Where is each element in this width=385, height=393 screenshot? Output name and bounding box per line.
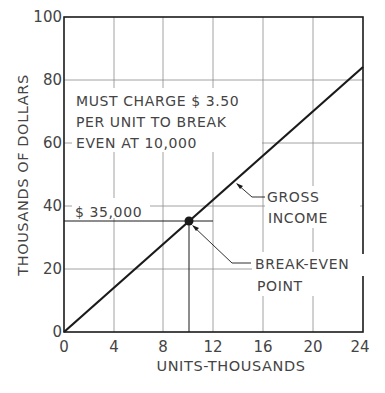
y-axis-label: THOUSANDS OF DOLLARS [15, 74, 31, 277]
svg-text:16: 16 [253, 338, 272, 356]
break-even-leader [193, 226, 251, 263]
y-tick-labels: 0 20 40 60 80 100 [33, 8, 62, 341]
break-even-guides [64, 221, 213, 332]
svg-text:POINT: POINT [257, 278, 303, 294]
svg-text:24: 24 [350, 338, 369, 356]
svg-text:EVEN AT 10,000: EVEN AT 10,000 [76, 135, 197, 151]
svg-text:0: 0 [59, 338, 69, 356]
x-tick-labels: 0 4 8 12 16 20 24 [59, 338, 369, 356]
x-axis-label: UNITS-THOUSANDS [156, 358, 305, 374]
break-even-point [185, 217, 194, 226]
break-even-value-label: $ 35,000 [75, 204, 142, 220]
svg-text:PER UNIT TO BREAK: PER UNIT TO BREAK [76, 114, 227, 130]
svg-text:INCOME: INCOME [268, 210, 328, 226]
svg-text:MUST CHARGE $ 3.50: MUST CHARGE $ 3.50 [76, 93, 239, 109]
svg-text:20: 20 [43, 260, 62, 278]
svg-text:20: 20 [303, 338, 322, 356]
svg-text:60: 60 [43, 134, 62, 152]
svg-text:100: 100 [33, 8, 62, 26]
svg-text:GROSS: GROSS [267, 189, 319, 205]
svg-text:40: 40 [43, 197, 62, 215]
svg-text:12: 12 [203, 338, 222, 356]
svg-text:80: 80 [43, 71, 62, 89]
svg-text:BREAK-EVEN: BREAK-EVEN [255, 256, 349, 272]
break-even-chart: 0 20 40 60 80 100 0 4 8 12 16 20 24 UNIT… [0, 0, 385, 393]
svg-text:4: 4 [109, 338, 119, 356]
svg-text:8: 8 [158, 338, 168, 356]
